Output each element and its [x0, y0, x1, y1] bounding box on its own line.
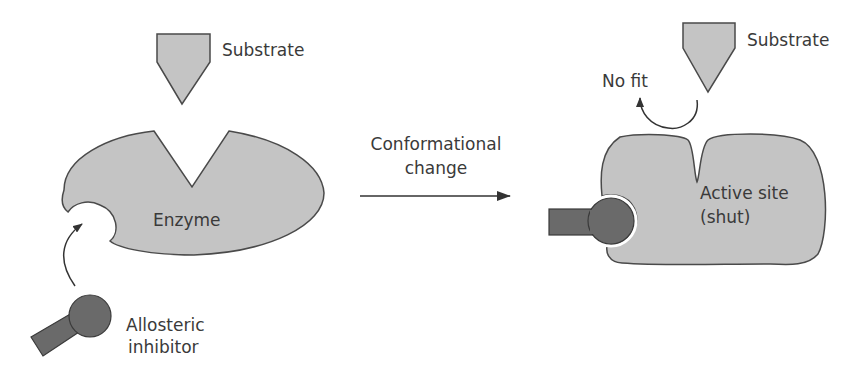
- allosteric-inhibitor-bound: [549, 196, 636, 246]
- substrate-label-right: Substrate: [747, 29, 829, 51]
- substrate-shape-right: [683, 23, 735, 92]
- active-site-label-line1: Active site: [700, 182, 789, 204]
- no-fit-arrow: [640, 98, 697, 128]
- conformational-change-label-line2: change: [356, 157, 516, 179]
- inhibitor-label-line2: inhibitor: [128, 336, 199, 358]
- inhibitor-label-line1: Allosteric: [126, 314, 205, 336]
- substrate-label-left: Substrate: [222, 39, 304, 61]
- binding-arrow: [64, 224, 82, 286]
- enzyme-shape-left: [62, 131, 324, 255]
- allosteric-inhibitor-left: [31, 295, 111, 356]
- enzyme-label: Enzyme: [153, 209, 221, 231]
- no-fit-label: No fit: [602, 70, 648, 92]
- conformational-change-label-line1: Conformational: [356, 133, 516, 155]
- substrate-shape-left: [157, 34, 210, 104]
- active-site-label-line2: (shut): [700, 206, 750, 228]
